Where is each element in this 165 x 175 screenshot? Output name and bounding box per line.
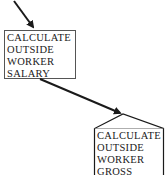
node-label-line: WORKER xyxy=(97,154,144,165)
incoming-arrow xyxy=(14,1,33,27)
node-label-line: WORKER xyxy=(7,56,54,67)
node-label-line: CALCULATE xyxy=(97,130,161,141)
connector-arrow xyxy=(40,79,120,113)
node-label-line: GROSS xyxy=(97,166,132,175)
node-label-line: SALARY xyxy=(7,68,50,79)
node-label-line: OUTSIDE xyxy=(97,142,144,153)
node-label-line: CALCULATE xyxy=(7,32,71,43)
node-label-line: OUTSIDE xyxy=(7,44,54,55)
diagram-canvas: CALCULATE OUTSIDE WORKER SALARY CALCULAT… xyxy=(0,0,165,175)
node-calculate-outside-worker-salary[interactable]: CALCULATE OUTSIDE WORKER SALARY xyxy=(5,31,76,80)
node-calculate-outside-worker-gross[interactable]: CALCULATE OUTSIDE WORKER GROSS xyxy=(95,114,164,175)
